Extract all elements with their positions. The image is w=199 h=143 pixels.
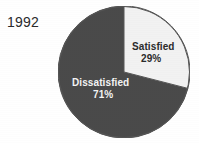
pie-label-dissatisfied-name: Dissatisfied: [72, 77, 129, 88]
pie-svg: [58, 6, 190, 138]
pie-label-satisfied-value: 29%: [141, 53, 161, 64]
pie-label-satisfied-name: Satisfied: [132, 41, 175, 52]
pie-chart-graphic: [58, 6, 190, 138]
year-label: 1992: [7, 14, 39, 30]
pie-label-dissatisfied-value: 71%: [93, 89, 113, 100]
pie-chart-figure: 1992 Satisfied 29% Dissatisfied 71%: [0, 0, 199, 143]
